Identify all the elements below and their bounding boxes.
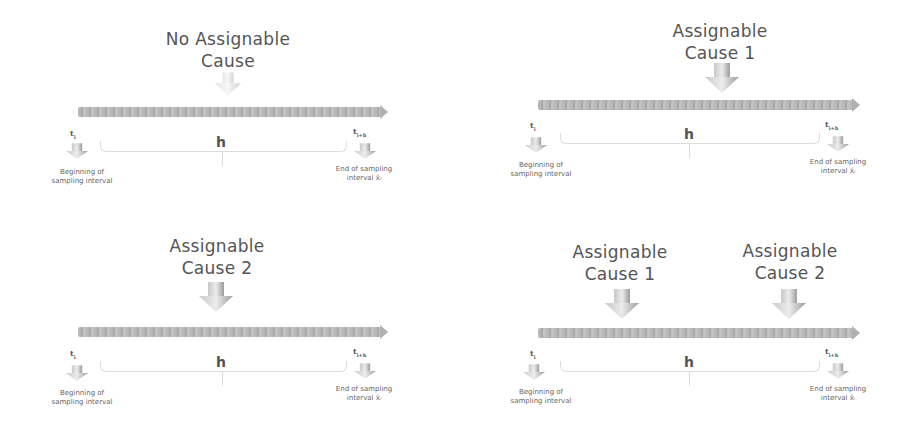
timeline-bar (78, 327, 381, 337)
brace-tip (222, 372, 223, 386)
faint-down-arrow-icon (215, 72, 241, 96)
t-start-label: ti (530, 120, 536, 132)
brace-tip (222, 152, 223, 166)
interval-brace (560, 133, 820, 144)
brace-tip (689, 144, 690, 158)
cause-2-down-arrow-icon (772, 289, 806, 319)
cause-down-arrow-icon (705, 63, 739, 93)
begin-interval-note: Beginning ofsampling interval (493, 388, 589, 406)
begin-interval-note: Beginning ofsampling interval (34, 389, 130, 407)
cause-2-title: Assignable Cause 2 (725, 240, 855, 284)
begin-interval-note: Beginning ofsampling interval (493, 161, 589, 179)
t-end-label: ti+h (353, 126, 366, 138)
timeline-bar (538, 328, 853, 338)
panel-assignable-cause-1: Assignable Cause 1 ti ti+h h Beginning o… (460, 0, 915, 218)
begin-down-arrow-icon (523, 364, 545, 380)
t-end-label: ti+h (825, 346, 838, 358)
brace-tip (689, 372, 690, 386)
end-interval-note: End of samplinginterval x̄ᵢ (318, 385, 410, 403)
t-end-label: ti+h (353, 346, 366, 358)
panel-no-assignable-cause: No Assignable Cause ti ti+h h Beginning … (0, 0, 457, 218)
t-end-label: ti+h (825, 119, 838, 131)
begin-down-arrow-icon (66, 365, 88, 381)
begin-interval-note: Beginning ofsampling interval (34, 168, 130, 186)
t-start-label: ti (530, 348, 536, 360)
end-down-arrow-icon (827, 363, 849, 379)
panel-assignable-cause-2: Assignable Cause 2 ti ti+h h Beginning o… (0, 220, 457, 437)
panel-assignable-causes-1-and-2: Assignable Cause 1 Assignable Cause 2 ti… (460, 220, 915, 437)
end-down-arrow-icon (354, 363, 376, 379)
cause-title: Assignable Cause 1 (655, 20, 785, 64)
interval-brace (100, 361, 347, 372)
interval-brace (100, 141, 347, 152)
begin-down-arrow-icon (66, 143, 88, 159)
cause-title: Assignable Cause 2 (152, 235, 282, 279)
cause-1-down-arrow-icon (605, 289, 639, 319)
end-interval-note: End of samplinginterval x̄ᵢ (318, 165, 410, 183)
end-interval-note: End of samplinginterval x̄ᵢ (792, 385, 884, 403)
interval-brace (560, 361, 820, 372)
cause-title: No Assignable Cause (158, 28, 298, 72)
end-interval-note: End of samplinginterval x̄ᵢ (792, 158, 884, 176)
t-start-label: ti (70, 348, 76, 360)
end-down-arrow-icon (354, 143, 376, 159)
cause-1-title: Assignable Cause 1 (555, 241, 685, 285)
timeline-bar (78, 107, 381, 117)
begin-down-arrow-icon (525, 137, 547, 153)
cause-down-arrow-icon (199, 282, 233, 312)
end-down-arrow-icon (827, 136, 849, 152)
t-start-label: ti (70, 128, 76, 140)
timeline-bar (538, 100, 853, 110)
